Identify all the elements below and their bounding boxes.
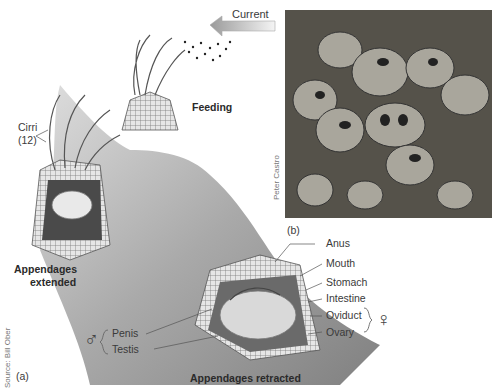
organ-label-ovary: Ovary [326, 326, 354, 338]
organ-label-testis: Testis [112, 343, 139, 355]
feeding-barnacle [122, 35, 185, 130]
male-symbol-icon: ♂ [84, 328, 99, 351]
organ-label-oviduct: Oviduct [326, 309, 362, 321]
retracted-caption: Appendages retracted [190, 372, 301, 384]
organ-label-mouth: Mouth [326, 257, 355, 269]
cirri-label: Cirri [18, 121, 37, 133]
cirri-count: (12) [18, 134, 37, 146]
female-symbol-icon: ♀ [376, 308, 391, 331]
panel-a-label: (a) [16, 370, 29, 382]
organ-label-stomach: Stomach [326, 276, 367, 288]
organ-label-penis: Penis [112, 327, 138, 339]
feeding-label: Feeding [192, 101, 232, 113]
organ-label-intestine: Intestine [326, 292, 366, 304]
source-credit: Source: Bill Ober [3, 328, 12, 388]
extended-caption-line2: extended [30, 276, 76, 288]
panel-b-label: (b) [287, 224, 300, 236]
barnacles-photo [285, 10, 492, 218]
extended-caption-line1: Appendages [14, 263, 77, 275]
female-brace [364, 308, 372, 332]
photo-credit: Peter Castro [272, 155, 281, 200]
food-particles [184, 41, 231, 61]
current-label: Current [232, 8, 269, 20]
organ-label-anus: Anus [326, 237, 350, 249]
